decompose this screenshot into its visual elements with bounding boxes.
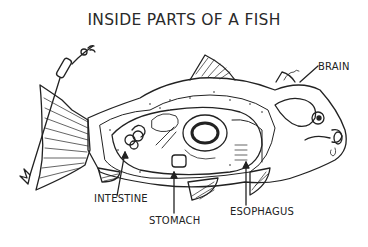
label-brain: BRAIN <box>318 61 350 72</box>
dorsal-fin <box>190 55 235 80</box>
fish-head <box>275 98 342 156</box>
tail-fin <box>36 85 90 190</box>
fish-illustration <box>0 0 368 247</box>
brain-leader-line <box>300 66 318 82</box>
stomach-organ <box>172 115 227 167</box>
intestine-organ <box>125 125 145 149</box>
label-stomach: STOMACH <box>149 215 201 226</box>
label-esophagus: ESOPHAGUS <box>230 206 294 217</box>
label-intestine: INTESTINE <box>94 193 148 204</box>
